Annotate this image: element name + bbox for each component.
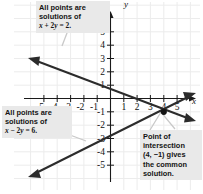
callout-top-equation: All points are solutions of x + 2y = 2. <box>36 1 110 33</box>
callout-leader-lines <box>62 20 175 141</box>
y-tick--2: -2 <box>97 120 105 130</box>
y-tick--1: -1 <box>97 107 105 117</box>
x-tick-2: 2 <box>135 102 140 112</box>
intersection-point-dot <box>161 109 167 115</box>
y-tick--4: -4 <box>97 147 105 157</box>
y-tick-2: 2 <box>100 67 105 77</box>
callout-right-line1: Point of <box>143 132 199 141</box>
callout-right-line2: intersection <box>143 141 199 150</box>
line2-arrow-left <box>28 169 41 178</box>
callout-left-equation: All points are solutions of x − 2y = 6. <box>2 106 72 138</box>
callout-intersection: Point of intersection (4, −1) gives the … <box>140 130 202 180</box>
callout-left-equation-text: x − 2y = 6. <box>5 126 69 135</box>
callout-top-line1: All points are <box>39 3 107 12</box>
x-axis-label: x <box>192 96 196 106</box>
callout-right-line5: solution. <box>143 169 199 178</box>
y-axis-label: y <box>124 0 128 9</box>
callout-left-line2: solutions of <box>5 117 69 126</box>
callout-right-line4: the common <box>143 160 199 169</box>
x-tick-1: 1 <box>121 102 126 112</box>
figure-canvas: -5 -4 -3 -2 -1 1 2 3 4 5 5 4 3 2 1 -1 -2… <box>0 0 203 194</box>
line1-arrow-left <box>28 57 40 67</box>
x-tick--2: -2 <box>76 102 84 112</box>
callout-top-line2: solutions of <box>39 12 107 21</box>
callout-right-line3: (4, −1) gives <box>143 150 199 159</box>
y-tick-3: 3 <box>100 54 105 64</box>
callout-left-line1: All points are <box>5 108 69 117</box>
y-tick-4: 4 <box>100 40 105 50</box>
callout-top-equation-text: x + 2y = 2. <box>39 21 107 30</box>
y-tick--5: -5 <box>97 160 105 170</box>
